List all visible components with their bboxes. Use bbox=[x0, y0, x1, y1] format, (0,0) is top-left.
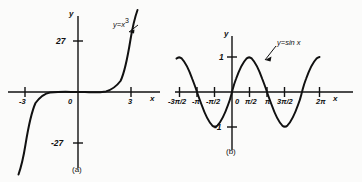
panel-b-x-axis-label: x bbox=[333, 95, 337, 103]
figure-container: y x 27 -27 -3 0 3 y=x3 (a) bbox=[0, 0, 362, 182]
panel-b-xtick-label-neg3pi2: -3π/2 bbox=[168, 98, 186, 106]
panel-a-ytick-label-neg27: -27 bbox=[51, 139, 63, 148]
panel-a-xtick-label-neg3: -3 bbox=[19, 98, 26, 106]
panel-a-curve-label: y=x3 bbox=[113, 17, 129, 28]
panel-b-caption: (b) bbox=[226, 148, 236, 156]
panel-b-curve-label: y=sin x bbox=[277, 39, 301, 47]
panel-a-xtick-label-3: 3 bbox=[128, 98, 132, 106]
panel-a-xtick-label-0: 0 bbox=[68, 98, 72, 106]
panel-b-xtick-label-2pi: 2π bbox=[316, 98, 326, 106]
panel-b-xtick-label-negpi: -π bbox=[192, 98, 200, 106]
panel-b-sine-plot: y x 1 -1 -3π/2 -π -π/2 0 π/2 π 3π/2 2π y… bbox=[181, 0, 362, 182]
panel-b-xtick-label-3pi2: 3π/2 bbox=[277, 98, 293, 106]
panel-a-ytick-label-27: 27 bbox=[56, 37, 65, 46]
panel-a-x-axis-label: x bbox=[150, 95, 154, 103]
panel-b-ytick-label-neg1: -1 bbox=[214, 123, 222, 132]
panel-b-xtick-label-pi2: π/2 bbox=[245, 98, 257, 106]
panel-a-curve-label-exponent: 3 bbox=[125, 17, 129, 24]
panel-b-graphics bbox=[181, 0, 362, 182]
panel-a-graphics bbox=[0, 0, 181, 182]
panel-a-y-axis-label: y bbox=[69, 10, 73, 18]
panel-b-xtick-label-0: 0 bbox=[235, 98, 239, 106]
panel-b-xtick-label-pi: π bbox=[265, 98, 270, 106]
panel-b-y-axis-label: y bbox=[224, 30, 228, 38]
panel-a-cubic-plot: y x 27 -27 -3 0 3 y=x3 (a) bbox=[0, 0, 181, 182]
panel-b-xtick-label-negpi2: -π/2 bbox=[206, 98, 220, 106]
panel-b-ytick-label-1: 1 bbox=[219, 53, 224, 62]
panel-a-caption: (a) bbox=[72, 166, 82, 174]
panel-a-curve-label-base: y=x bbox=[113, 20, 125, 29]
